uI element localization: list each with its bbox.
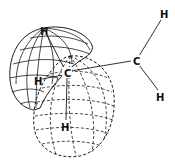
bond-c2-h5 xyxy=(139,65,158,90)
atom-h1: H xyxy=(40,26,48,37)
atom-labels: C C H H H H H xyxy=(34,9,168,133)
atom-h5: H xyxy=(156,92,164,103)
atom-h4: H xyxy=(160,9,168,20)
atom-c2: C xyxy=(133,56,140,67)
solid-lobe xyxy=(10,27,93,110)
bond-c1-h1 xyxy=(47,35,64,68)
atom-h2: H xyxy=(34,76,42,87)
dashed-lobe xyxy=(34,56,115,157)
bonds xyxy=(42,20,161,120)
atom-h3: H xyxy=(61,122,69,133)
atom-c1: C xyxy=(64,68,71,79)
bond-c1-c2 xyxy=(71,61,131,71)
bond-c2-h4 xyxy=(139,20,161,56)
molecular-orbital-diagram: C C H H H H H xyxy=(0,0,175,162)
